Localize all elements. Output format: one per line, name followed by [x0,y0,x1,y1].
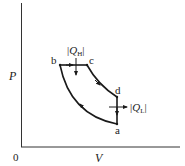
y-axis-label: P [8,69,17,83]
heat-in-symbol: Q [69,44,77,56]
point-label-d: d [115,84,121,96]
point-label-a: a [115,124,120,136]
pv-diagram-svg: b c d a |QH| |QL| P V 0 [0,0,185,166]
point-label-b: b [51,54,57,66]
heat-out-symbol: Q [132,101,140,113]
segment-ab [60,65,117,124]
segment-cd [87,65,117,97]
cycle-path [60,65,117,124]
point-label-c: c [89,54,94,66]
x-axis-label: V [95,151,104,165]
heat-in-label: |QH| [67,44,84,58]
pv-diagram: b c d a |QH| |QL| P V 0 [0,0,185,166]
heat-out-label: |QL| [130,101,147,115]
origin-label: 0 [13,151,19,163]
